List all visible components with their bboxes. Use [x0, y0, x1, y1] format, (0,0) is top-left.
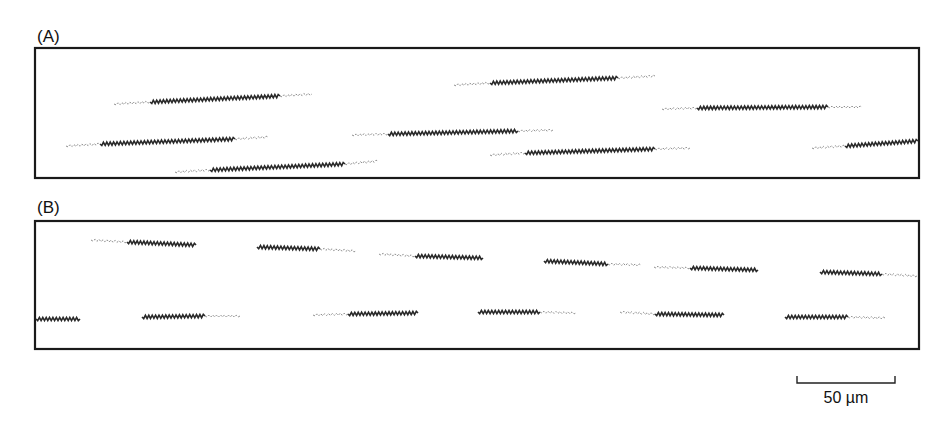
filament-tail-start — [454, 82, 490, 86]
filament — [175, 160, 378, 173]
filament-tail-end — [205, 315, 240, 317]
panel-b-filaments — [36, 239, 917, 320]
filament — [379, 253, 483, 259]
scale-bar: 50 µm — [797, 376, 895, 406]
filament-core — [348, 311, 418, 315]
filament — [66, 136, 268, 147]
filament-tail-end — [345, 160, 378, 165]
filament-tail-end — [280, 93, 312, 97]
filament-core — [142, 314, 205, 318]
filament — [478, 310, 576, 314]
filament-core — [785, 315, 848, 318]
panel-b-frame — [35, 221, 919, 349]
filament — [257, 246, 356, 252]
filament-core — [415, 255, 483, 260]
filament-tail-start — [379, 253, 415, 257]
scale-bar-label: 50 µm — [824, 389, 869, 406]
panel-a: (A) — [35, 27, 919, 178]
filament-tail-end — [848, 316, 885, 319]
filament-core — [257, 246, 320, 251]
filament-tail-end — [655, 147, 690, 150]
filament — [620, 311, 724, 316]
filament-tail-start — [662, 107, 697, 110]
filament-core — [150, 95, 280, 104]
filament-tail-end — [518, 129, 553, 132]
filament-tail-start — [313, 313, 348, 316]
filament — [490, 147, 690, 156]
filament-tail-start — [114, 101, 150, 105]
panel-b: (B) — [35, 198, 919, 349]
filament — [544, 260, 641, 266]
filament-tail-start — [812, 145, 845, 149]
filament — [785, 315, 885, 319]
filament — [142, 314, 240, 318]
scale-bar-line — [797, 376, 895, 383]
filament-diagram: (A) (B) 50 µm — [0, 0, 950, 426]
filament-tail-start — [66, 143, 100, 147]
filament — [662, 105, 862, 110]
filament-core — [690, 267, 758, 272]
filament-tail-end — [608, 263, 641, 266]
filament-tail-start — [91, 239, 127, 243]
panel-b-label: (B) — [37, 198, 60, 217]
filament-core — [544, 260, 608, 266]
filament-tail-end — [882, 273, 917, 277]
filament — [352, 129, 553, 136]
panel-a-filaments — [66, 75, 918, 173]
filament — [91, 239, 196, 246]
filament — [812, 140, 918, 149]
filament-core — [697, 105, 828, 109]
filament-core — [820, 271, 882, 276]
filament — [454, 75, 655, 86]
filament-tail-start — [654, 266, 690, 269]
filament-tail-end — [828, 106, 862, 108]
filament-tail-end — [235, 136, 268, 140]
filament-core — [36, 317, 80, 320]
filament — [654, 266, 758, 271]
filament-core — [127, 241, 196, 247]
filament-tail-start — [490, 152, 525, 156]
filament-tail-start — [352, 133, 388, 136]
filament-tail-start — [175, 169, 210, 173]
filament-tail-end — [618, 75, 655, 79]
filament-core — [525, 148, 655, 155]
filament-core — [478, 310, 540, 313]
filament-core — [845, 140, 918, 148]
filament — [36, 317, 80, 320]
filament-tail-end — [320, 248, 356, 252]
filament-tail-end — [540, 311, 576, 314]
filament-tail-start — [620, 311, 655, 315]
panel-a-frame — [35, 48, 919, 178]
filament-core — [388, 130, 518, 136]
filament — [313, 311, 418, 316]
filament — [114, 93, 312, 105]
panel-a-label: (A) — [37, 27, 60, 46]
filament-core — [655, 312, 724, 316]
filament — [820, 271, 917, 277]
filament-core — [100, 138, 235, 146]
filament-core — [490, 77, 618, 85]
filament-core — [210, 163, 345, 172]
